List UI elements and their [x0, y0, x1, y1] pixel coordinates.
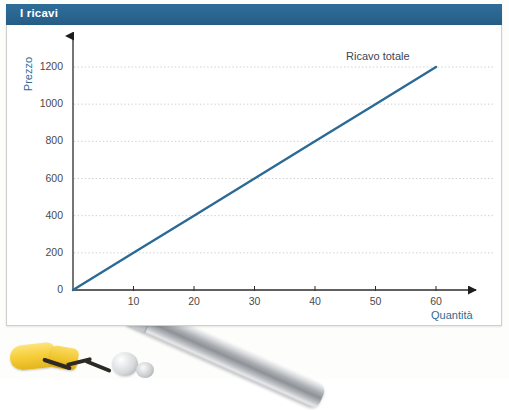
x-axis-tick-label: 40: [300, 295, 330, 307]
y-axis-tick-label: 600: [29, 172, 63, 184]
y-axis-tick-label: 1200: [29, 60, 63, 72]
y-axis-tick-label: 1000: [29, 97, 63, 109]
y-axis-tick-label: 0: [29, 283, 63, 295]
series-label-ricavo-totale: Ricavo totale: [346, 50, 410, 62]
gray-blob-icon: [136, 362, 154, 378]
page-title: I ricavi: [20, 7, 58, 19]
chart-card: [6, 4, 502, 326]
x-axis-tick-label: 60: [421, 295, 451, 307]
y-axis-tick-label: 200: [29, 246, 63, 258]
x-axis-tick-label: 50: [361, 295, 391, 307]
y-axis-tick-label: 400: [29, 209, 63, 221]
panel-title-bar: I ricavi: [6, 4, 502, 25]
x-axis-tick-label: 10: [119, 295, 149, 307]
x-axis-tick-label: 30: [240, 295, 270, 307]
y-axis-title: Prezzo: [22, 44, 34, 104]
x-axis-title: Quantità: [431, 309, 473, 321]
wire-segment-icon: [84, 359, 111, 373]
x-axis-tick-label: 20: [179, 295, 209, 307]
y-axis-tick-label: 800: [29, 134, 63, 146]
gray-blob-icon: [112, 352, 138, 376]
